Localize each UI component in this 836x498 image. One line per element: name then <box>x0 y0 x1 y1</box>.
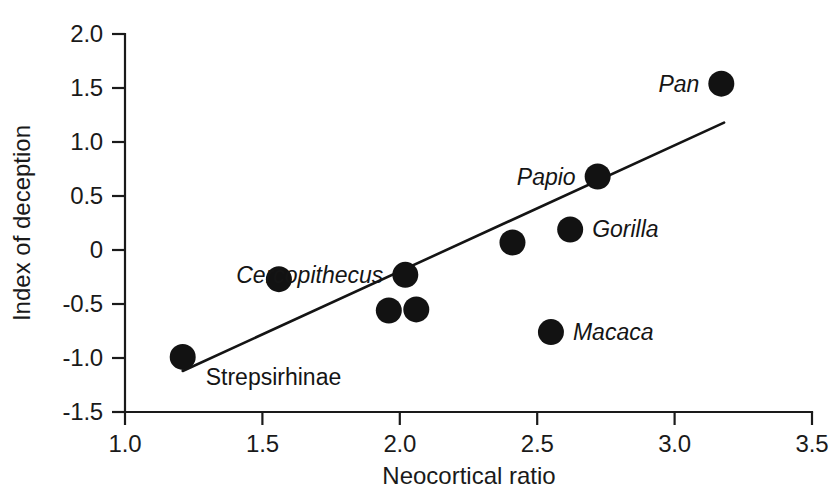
y-tick-label-2: 1.0 <box>70 128 103 155</box>
data-point-8 <box>585 164 611 190</box>
x-tick-label-0: 1.0 <box>109 430 142 457</box>
point-label-macaca: Macaca <box>573 319 654 345</box>
point-label-cercopithecus: Cercopithecus <box>236 262 384 288</box>
data-point-7 <box>538 319 564 345</box>
y-tick-label-7: -1.5 <box>62 398 103 425</box>
y-tick-label-6: -1.0 <box>62 344 103 371</box>
data-point-4 <box>392 262 418 288</box>
data-point-2 <box>376 297 402 323</box>
data-point-labels: StrepsirhinaeCercopithecusGorillaMacacaP… <box>206 71 700 390</box>
data-point-5 <box>499 229 525 255</box>
y-tick-label-4: 0 <box>90 236 103 263</box>
axis-spines <box>125 34 812 412</box>
y-tick-label-5: -0.5 <box>62 290 103 317</box>
x-tick-label-4: 3.0 <box>658 430 691 457</box>
x-tick-label-2: 2.0 <box>383 430 416 457</box>
data-point-9 <box>708 71 734 97</box>
y-tick-label-0: 2.0 <box>70 20 103 47</box>
y-tick-label-1: 1.5 <box>70 74 103 101</box>
y-tick-label-3: 0.5 <box>70 182 103 209</box>
y-axis-title: Index of deception <box>8 125 35 321</box>
x-tick-label-1: 1.5 <box>246 430 279 457</box>
point-label-pan: Pan <box>658 71 699 97</box>
axes <box>125 34 812 412</box>
x-tick-label-5: 3.5 <box>796 430 829 457</box>
x-axis-title: Neocortical ratio <box>382 462 555 489</box>
point-label-gorilla: Gorilla <box>592 216 658 242</box>
data-point-0 <box>170 344 196 370</box>
scatter-plot-figure: 2.01.51.00.50-0.5-1.0-1.51.01.52.02.53.0… <box>0 0 836 498</box>
data-point-3 <box>403 296 429 322</box>
point-label-papio: Papio <box>517 164 576 190</box>
x-tick-label-3: 2.5 <box>521 430 554 457</box>
point-label-strepsirhinae: Strepsirhinae <box>206 364 342 390</box>
data-point-6 <box>557 216 583 242</box>
chart-canvas: 2.01.51.00.50-0.5-1.0-1.51.01.52.02.53.0… <box>0 0 836 498</box>
